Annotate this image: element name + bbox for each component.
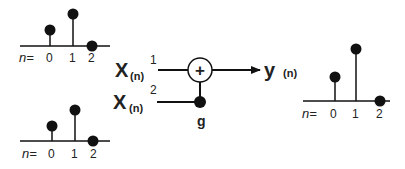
gain-node xyxy=(194,96,206,108)
tick-0: 0 xyxy=(330,107,337,121)
stem-dot xyxy=(45,25,56,36)
tick-1: 1 xyxy=(71,147,78,161)
tick-2: 2 xyxy=(88,51,95,65)
tick-1: 1 xyxy=(352,107,359,121)
tick-0: 0 xyxy=(48,147,55,161)
gain-label: g xyxy=(197,113,206,129)
input-label-x2: X (n) 2 xyxy=(113,83,157,114)
tick-2: 2 xyxy=(90,147,97,161)
stem-dot xyxy=(70,105,81,116)
stem-dot xyxy=(88,136,99,147)
stem-plot-y: n= 0 1 2 xyxy=(302,44,390,122)
stem-dot xyxy=(47,121,58,132)
stem-dot xyxy=(87,41,98,52)
y-subscript: (n) xyxy=(283,67,297,79)
x1-subscript: (n) xyxy=(130,70,144,82)
stem-dot xyxy=(375,96,386,107)
signal-adder-diagram: n= 0 1 2 n= 0 1 2 X (n) 1 X (n) 2 + g xyxy=(0,0,405,169)
output-label: y (n) xyxy=(264,59,297,81)
tick-0: 0 xyxy=(46,51,53,65)
adder-node: + xyxy=(188,58,212,82)
tick-1: 1 xyxy=(69,51,76,65)
x2-superscript: 2 xyxy=(150,83,157,97)
y-symbol: y xyxy=(264,59,276,81)
n-label: n= xyxy=(22,146,37,161)
x1-superscript: 1 xyxy=(150,53,157,67)
x2-subscript: (n) xyxy=(129,102,143,114)
plus-icon: + xyxy=(195,61,205,80)
tick-2: 2 xyxy=(376,107,383,121)
stem-plot-x2: n= 0 1 2 xyxy=(20,105,110,162)
x2-symbol: X xyxy=(113,91,127,113)
stem-plot-x1: n= 0 1 2 xyxy=(19,9,110,66)
n-label: n= xyxy=(302,106,317,121)
stem-dot xyxy=(351,44,362,55)
stem-dot xyxy=(330,72,341,83)
input-label-x1: X (n) 1 xyxy=(115,53,157,82)
stem-dot xyxy=(68,9,79,20)
n-label: n= xyxy=(19,50,34,65)
x1-symbol: X xyxy=(115,59,129,81)
